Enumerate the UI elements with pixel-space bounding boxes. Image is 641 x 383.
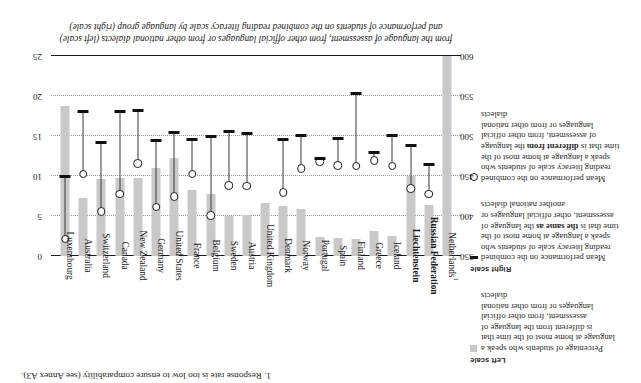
country-label: Iceland	[392, 242, 401, 270]
mean-same-language-marker	[187, 139, 198, 142]
y-axis-right-tick: 5	[2, 212, 42, 222]
legend-left-scale-title: Left scale	[470, 356, 620, 365]
mean-same-language-marker	[241, 132, 252, 135]
mean-same-language-marker	[296, 135, 307, 138]
chart-column: United Kingdom	[256, 56, 274, 256]
chart-column: Spain	[329, 56, 347, 256]
performance-range-connector	[246, 134, 247, 187]
country-label: Luxembourg	[65, 232, 74, 280]
mean-same-language-marker	[132, 109, 143, 112]
performance-range-connector	[228, 132, 229, 186]
chart-column: Iceland	[383, 56, 401, 256]
chart-column: Portugal	[311, 56, 329, 256]
mean-same-language-marker	[314, 157, 325, 160]
legend-entry-percentage-text: Percentage of students who speak a langu…	[481, 291, 615, 354]
chart-plot-area: 3504004505005506000510152025Netherlands1…	[56, 56, 456, 256]
legend-entry-percentage: Percentage of students who speak a langu…	[470, 290, 620, 354]
chart-column: Sweden	[220, 56, 238, 256]
mean-same-language-marker	[332, 137, 343, 140]
country-label: Liechtenstein	[411, 229, 420, 283]
figure-footnote: 1. Response rate is too low to ensure co…	[1, 370, 271, 381]
grey-square-swatch-icon	[470, 346, 477, 353]
mean-different-language-marker	[97, 208, 106, 217]
chart-column: France	[183, 56, 201, 256]
mean-different-language-marker	[388, 162, 397, 171]
performance-range-connector	[410, 146, 411, 189]
y-axis-right-tick: 15	[2, 132, 42, 142]
y-axis-right-tick: 25	[2, 52, 42, 62]
country-label: Belgium	[211, 240, 220, 272]
chart-column: Russian Federation	[420, 56, 438, 256]
mean-different-language-marker	[297, 164, 306, 173]
mean-different-language-marker	[243, 182, 252, 191]
mean-same-language-marker	[223, 131, 234, 134]
performance-range-connector	[174, 133, 175, 197]
mean-different-language-marker	[352, 162, 361, 171]
performance-range-connector	[119, 111, 120, 194]
chart-column: Germany	[147, 56, 165, 256]
performance-range-connector	[356, 94, 357, 167]
y-axis-left-tick: 600	[460, 52, 500, 62]
chart-column: Finland	[347, 56, 365, 256]
mean-different-language-marker	[334, 161, 343, 170]
mean-different-language-marker	[134, 160, 143, 169]
mean-same-language-marker	[405, 144, 416, 147]
mean-same-language-marker	[387, 135, 398, 138]
performance-range-connector	[65, 177, 66, 239]
y-axis-left-tick: 400	[460, 212, 500, 222]
mean-same-language-marker	[96, 141, 107, 144]
mean-different-language-marker	[206, 212, 215, 221]
chart-column: Denmark	[274, 56, 292, 256]
y-axis-right-tick: 10	[2, 172, 42, 182]
mean-same-language-marker	[60, 175, 71, 178]
performance-range-connector	[156, 141, 157, 207]
country-label: Netherlands1	[447, 232, 461, 281]
performance-range-connector	[210, 137, 211, 216]
mean-different-language-marker	[188, 170, 197, 179]
mean-different-language-marker	[425, 190, 434, 199]
mean-different-language-marker	[79, 170, 88, 179]
figure-caption: from the language of assessment, from ot…	[56, 21, 456, 45]
percentage-bar	[442, 56, 451, 256]
country-label: Australia	[83, 239, 92, 273]
mean-different-language-marker	[279, 188, 288, 197]
chart-column: Norway	[292, 56, 310, 256]
y-axis-right-tick: 0	[2, 252, 42, 262]
country-label: Germany	[156, 239, 165, 274]
chart-column: Belgium	[201, 56, 219, 256]
country-label: United States	[174, 231, 183, 281]
mean-different-language-marker	[152, 203, 161, 212]
y-axis-left-tick: 350	[460, 252, 500, 262]
mean-same-language-marker	[151, 139, 162, 142]
performance-range-connector	[83, 112, 84, 174]
mean-same-language-marker	[169, 131, 180, 134]
country-label: Switzerland	[101, 234, 110, 279]
chart-column: Liechtenstein	[401, 56, 419, 256]
chart-column: United States	[165, 56, 183, 256]
chart-column: Australia	[74, 56, 92, 256]
country-label: Norway	[301, 241, 310, 271]
country-label: France	[192, 243, 201, 269]
chart-column: Greece	[365, 56, 383, 256]
legend-entry-different-emphasis: different from	[527, 142, 579, 152]
chart-column: New Zealand	[129, 56, 147, 256]
country-label: Spain	[338, 245, 347, 266]
country-label: Russian Federation	[429, 217, 438, 295]
y-axis-left-tick: 500	[460, 132, 500, 142]
mean-same-language-marker	[78, 111, 89, 114]
country-label: Finland	[356, 242, 365, 271]
mean-same-language-marker	[205, 135, 216, 138]
performance-range-connector	[137, 110, 138, 164]
y-axis-right-tick: 20	[2, 92, 42, 102]
chart-column: Canada	[111, 56, 129, 256]
chart-column: Netherlands1	[438, 56, 456, 256]
country-label: Austria	[247, 242, 256, 270]
legend-right-scale-title: Right scale	[470, 265, 620, 274]
mean-same-language-marker	[278, 139, 289, 142]
mean-different-language-marker	[406, 184, 415, 193]
mean-different-language-marker	[115, 190, 124, 199]
mean-different-language-marker	[225, 181, 234, 190]
footnote-marker: 1	[452, 277, 459, 280]
country-label: Sweden	[229, 241, 238, 271]
country-label: Denmark	[283, 239, 292, 274]
